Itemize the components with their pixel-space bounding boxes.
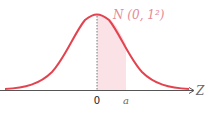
normal-distribution-diagram: N (0, 1²) Z 0 a bbox=[0, 0, 214, 113]
origin-label: 0 bbox=[94, 95, 100, 106]
shaded-area-0-to-a bbox=[97, 15, 126, 91]
bound-a-label: a bbox=[123, 95, 129, 106]
distribution-label: N (0, 1²) bbox=[112, 8, 165, 22]
z-axis-label: Z bbox=[195, 84, 205, 98]
